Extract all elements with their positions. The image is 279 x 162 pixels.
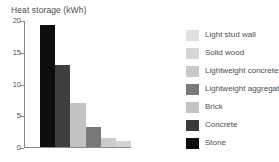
chart-legend: Light stud wallSolid woodLightweight con… (186, 26, 278, 152)
legend-item-label: Concrete (205, 121, 237, 129)
y-axis-tick-label: 15 (13, 48, 21, 57)
bar-slot (70, 21, 85, 147)
y-axis-tick: 0 (24, 148, 25, 149)
legend-swatch (186, 48, 199, 59)
legend-item[interactable]: Lightweight aggregate (186, 80, 278, 98)
legend-item-label: Brick (205, 103, 223, 111)
chart-title: Heat storage (kWh) (11, 5, 87, 15)
bar (40, 25, 55, 147)
bar-slot (55, 21, 70, 147)
legend-swatch (186, 84, 199, 95)
legend-swatch (186, 30, 199, 41)
bar-slot (86, 21, 101, 147)
legend-item[interactable]: Solid wood (186, 44, 278, 62)
bar (55, 65, 70, 147)
legend-item[interactable]: Light stud wall (186, 26, 278, 44)
bar-series (25, 21, 131, 147)
legend-item-label: Solid wood (205, 49, 244, 57)
bar (70, 103, 85, 147)
legend-item[interactable]: Stone (186, 134, 278, 152)
y-axis-tick-label: 10 (13, 80, 21, 89)
legend-item[interactable]: Brick (186, 98, 278, 116)
legend-item-label: Lightweight concrete (205, 67, 278, 75)
legend-swatch (186, 66, 199, 77)
legend-item[interactable]: Lightweight concrete (186, 62, 278, 80)
legend-swatch (186, 102, 199, 113)
y-axis-tick-label: 5 (17, 111, 21, 120)
bar (116, 141, 131, 147)
legend-item-label: Light stud wall (205, 31, 256, 39)
bar-slot (40, 21, 55, 147)
bar (86, 127, 101, 147)
legend-item[interactable]: Concrete (186, 116, 278, 134)
y-axis-tick-label: 20 (13, 16, 21, 25)
legend-swatch (186, 120, 199, 131)
legend-item-label: Lightweight aggregate (205, 85, 279, 93)
bar-slot (101, 21, 116, 147)
heat-storage-bar-chart: Heat storage (kWh) 05101520 Light stud w… (0, 0, 279, 162)
plot-area: 05101520 (24, 21, 131, 148)
bar-slot (116, 21, 131, 147)
bar-slot (25, 21, 40, 147)
legend-item-label: Stone (205, 139, 226, 147)
bar (101, 138, 116, 147)
x-axis-line (24, 147, 131, 148)
y-axis-tick-label: 0 (17, 143, 21, 152)
legend-swatch (186, 138, 199, 149)
